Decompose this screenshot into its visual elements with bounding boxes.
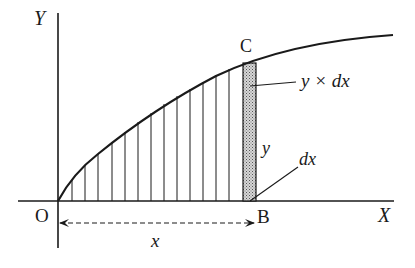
shaded-strip xyxy=(243,63,256,201)
strip-height-label: y xyxy=(262,139,270,157)
distance-label: x xyxy=(151,231,159,250)
area-diagram xyxy=(0,0,415,268)
leader-strip-area xyxy=(250,82,296,86)
x-axis-label: X xyxy=(378,205,390,225)
strip-area-label: y × dx xyxy=(301,71,350,90)
strip-width-label: dx xyxy=(299,150,316,168)
curve xyxy=(58,35,393,201)
origin-label: O xyxy=(35,206,49,225)
hatch-lines xyxy=(72,69,229,201)
point-c-label: C xyxy=(240,37,252,55)
leader-dx xyxy=(250,167,298,201)
y-axis-label: Y xyxy=(34,8,45,28)
point-b-label: B xyxy=(257,207,270,226)
